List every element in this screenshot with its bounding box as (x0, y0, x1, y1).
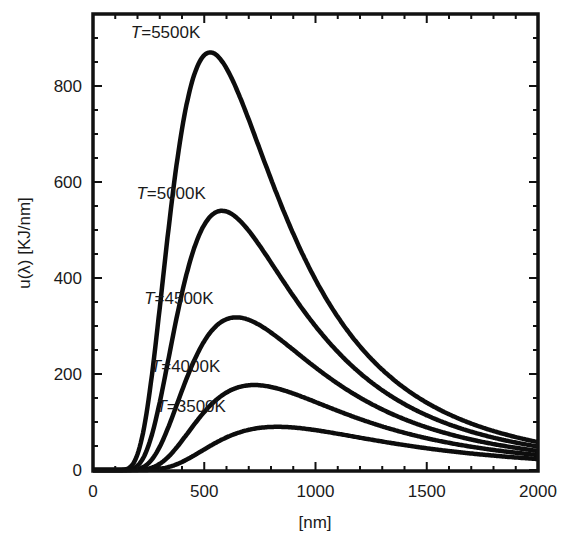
x-tick-label: 0 (88, 482, 97, 501)
curve-label-5500k: T=5500K (131, 23, 201, 42)
y-tick-label: 200 (54, 365, 82, 384)
curve-label-5000k: T=5000K (136, 184, 206, 203)
curve-labels: T=5500KT=5000KT=4500KT=4000KT=3500K (131, 23, 227, 416)
y-axis-ticks: 0200400600800 (54, 14, 538, 480)
y-tick-label: 600 (54, 173, 82, 192)
x-tick-label: 1500 (408, 482, 446, 501)
curve-label-4500k: T=4500K (144, 289, 214, 308)
x-tick-label: 500 (190, 482, 218, 501)
blackbody-spectrum-chart: 0500100015002000 0200400600800 T=5500KT=… (0, 0, 571, 548)
y-axis-title: u(λ) [KJ/nm] (15, 197, 34, 289)
y-tick-label: 0 (73, 461, 82, 480)
x-tick-label: 2000 (519, 482, 557, 501)
curve-label-4000k: T=4000K (151, 357, 221, 376)
curve-label-3500k: T=3500K (156, 397, 226, 416)
y-tick-label: 800 (54, 77, 82, 96)
x-tick-label: 1000 (297, 482, 335, 501)
y-tick-label: 400 (54, 269, 82, 288)
x-axis-title: [nm] (298, 513, 331, 532)
